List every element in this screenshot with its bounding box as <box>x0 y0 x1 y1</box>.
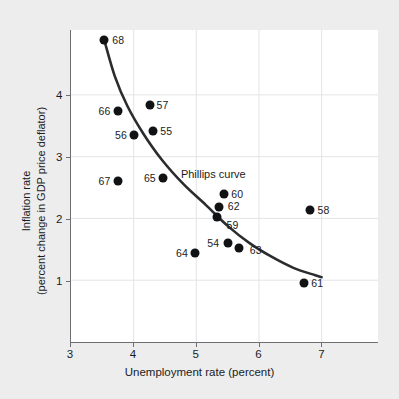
curve-path <box>104 40 321 277</box>
phillips-curve-figure: 686657565567656062595854636461 Phillips … <box>0 0 399 399</box>
y-tick-mark <box>66 281 70 282</box>
x-tick-label: 6 <box>255 348 261 360</box>
x-tick-mark <box>259 343 260 347</box>
x-tick-label: 3 <box>67 348 73 360</box>
y-tick-mark <box>66 219 70 220</box>
phillips-curve-line <box>71 30 378 342</box>
y-tick-label: 2 <box>56 213 62 225</box>
x-tick-label: 7 <box>318 348 324 360</box>
y-tick-label: 3 <box>56 151 62 163</box>
x-tick-mark <box>196 343 197 347</box>
y-tick-mark <box>66 95 70 96</box>
x-axis-title: Unemployment rate (percent) <box>0 366 399 378</box>
plot-area: 686657565567656062595854636461 Phillips … <box>70 30 378 343</box>
y-axis-title-line1: Inflation rate <box>19 71 34 331</box>
y-tick-label: 1 <box>56 275 62 287</box>
x-tick-label: 4 <box>130 348 136 360</box>
y-axis-title: Inflation rate (percent change in GDP pr… <box>19 71 49 331</box>
y-tick-label: 4 <box>56 89 62 101</box>
x-tick-mark <box>321 343 322 347</box>
curve-annotation-label: Phillips curve <box>181 168 246 180</box>
y-tick-mark <box>66 157 70 158</box>
x-tick-mark <box>70 343 71 347</box>
x-tick-mark <box>133 343 134 347</box>
x-tick-label: 5 <box>193 348 199 360</box>
y-axis-title-line2: (percent change in GDP price deflator) <box>34 71 49 331</box>
